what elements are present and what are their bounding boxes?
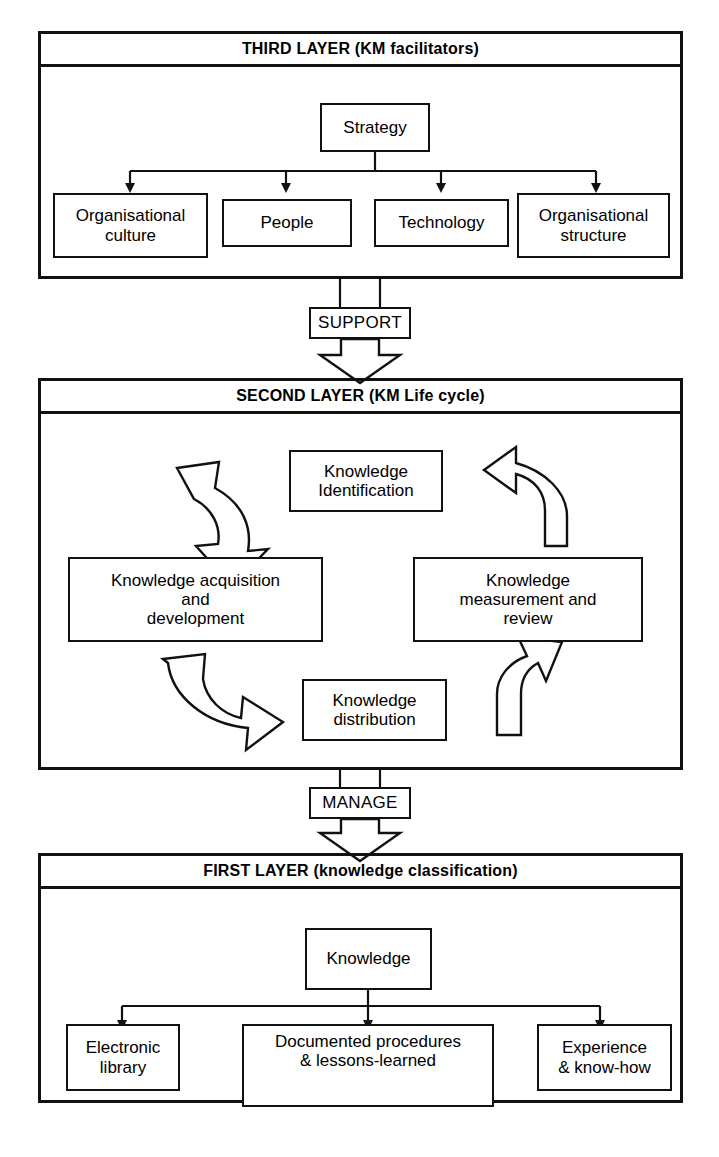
first-layer-header-text: FIRST LAYER (knowledge classification) — [203, 862, 518, 880]
node-knowledge-acquisition-line-2: and — [181, 590, 209, 609]
node-organisational-culture[interactable]: Organisational culture — [53, 193, 208, 258]
node-documented-procedures-line-2: & lessons-learned — [300, 1051, 436, 1070]
connector-label-support-text: SUPPORT — [318, 313, 402, 333]
first-layer-header: FIRST LAYER (knowledge classification) — [41, 856, 680, 889]
support-connector-lines — [340, 278, 380, 307]
node-knowledge-measurement-line-2: measurement and — [459, 590, 596, 609]
manage-connector-lines — [340, 770, 380, 787]
node-strategy-label: Strategy — [343, 118, 406, 137]
node-organisational-structure-label: Organisational structure — [523, 206, 664, 244]
node-knowledge-label: Knowledge — [326, 949, 410, 968]
node-electronic-library[interactable]: Electronic library — [66, 1024, 180, 1091]
node-documented-procedures-line-1: Documented procedures — [275, 1032, 461, 1051]
node-experience-knowhow-line-2: & know-how — [558, 1058, 651, 1077]
node-technology-label: Technology — [398, 213, 484, 232]
third-layer-header: THIRD LAYER (KM facilitators) — [41, 34, 680, 67]
node-organisational-structure[interactable]: Organisational structure — [517, 193, 670, 258]
node-experience-knowhow[interactable]: Experience & know-how — [537, 1024, 672, 1091]
connector-label-manage: MANAGE — [309, 787, 411, 819]
node-technology[interactable]: Technology — [374, 199, 509, 247]
node-documented-procedures[interactable]: Documented procedures & lessons-learned — [242, 1024, 494, 1107]
node-people-label: People — [261, 213, 314, 232]
second-layer-header-text: SECOND LAYER (KM Life cycle) — [236, 387, 485, 405]
node-strategy[interactable]: Strategy — [320, 103, 430, 152]
node-knowledge-distribution[interactable]: Knowledge distribution — [302, 679, 447, 741]
node-knowledge-distribution-line-1: Knowledge — [332, 691, 416, 710]
node-knowledge-measurement-review[interactable]: Knowledge measurement and review — [413, 557, 643, 642]
node-experience-knowhow-line-1: Experience — [562, 1038, 647, 1057]
node-electronic-library-line-1: Electronic — [86, 1038, 161, 1057]
connector-label-support: SUPPORT — [309, 307, 411, 339]
node-knowledge-measurement-line-3: review — [503, 609, 552, 628]
node-knowledge-identification-line-1: Knowledge — [324, 462, 408, 481]
support-block-arrow — [320, 339, 400, 383]
node-organisational-culture-label: Organisational culture — [59, 206, 202, 244]
node-knowledge-acquisition-line-1: Knowledge acquisition — [111, 571, 280, 590]
node-knowledge[interactable]: Knowledge — [305, 928, 432, 990]
node-knowledge-measurement-line-1: Knowledge — [486, 571, 570, 590]
node-knowledge-distribution-line-2: distribution — [333, 710, 415, 729]
node-knowledge-acquisition-development[interactable]: Knowledge acquisition and development — [68, 557, 323, 642]
node-people[interactable]: People — [222, 199, 352, 247]
node-electronic-library-line-2: library — [100, 1058, 146, 1077]
node-knowledge-identification-line-2: Identification — [318, 481, 413, 500]
node-knowledge-acquisition-line-3: development — [147, 609, 244, 628]
third-layer-header-text: THIRD LAYER (KM facilitators) — [242, 40, 479, 58]
connector-label-manage-text: MANAGE — [322, 793, 397, 813]
second-layer-header: SECOND LAYER (KM Life cycle) — [41, 381, 680, 414]
diagram-canvas: THIRD LAYER (KM facilitators) Strategy O… — [0, 0, 719, 1157]
node-knowledge-identification[interactable]: Knowledge Identification — [289, 450, 443, 512]
